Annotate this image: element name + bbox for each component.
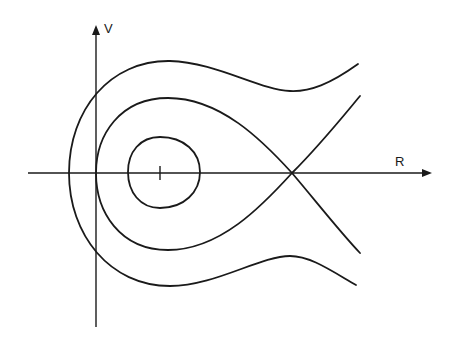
v-axis-label: V bbox=[104, 21, 113, 36]
phase-portrait-diagram: V R bbox=[0, 0, 451, 343]
r-axis-label: R bbox=[395, 154, 404, 169]
r-axis-arrow-icon bbox=[422, 169, 432, 177]
separatrix-lower-branch bbox=[292, 173, 360, 253]
v-axis-arrow-icon bbox=[92, 25, 100, 35]
separatrix-loop bbox=[96, 98, 292, 250]
separatrix-upper-branch bbox=[292, 96, 360, 173]
